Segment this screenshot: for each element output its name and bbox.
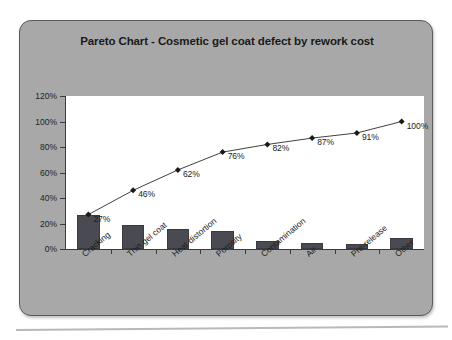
cumulative-marker bbox=[130, 187, 136, 193]
y-axis-tick-label: 80% bbox=[40, 142, 57, 152]
x-axis-category-label: Contamination bbox=[259, 216, 307, 259]
x-axis-category-label: Pre-release bbox=[349, 223, 389, 259]
cumulative-marker bbox=[264, 141, 270, 147]
cumulative-data-label: 91% bbox=[362, 132, 379, 142]
cumulative-data-label: 27% bbox=[93, 214, 110, 224]
y-axis-tick-label: 0% bbox=[45, 244, 57, 254]
y-axis-tick-label: 100% bbox=[35, 117, 57, 127]
y-axis-tick-label: 60% bbox=[40, 168, 57, 178]
cumulative-data-label: 62% bbox=[183, 169, 200, 179]
x-axis-tick bbox=[200, 249, 201, 254]
plot-area: 0%20%40%60%80%100%120% CrackingThin gel … bbox=[65, 96, 424, 250]
y-axis-tick bbox=[60, 122, 66, 123]
y-axis-tick bbox=[60, 224, 66, 225]
y-axis-tick bbox=[60, 96, 66, 97]
y-axis-tick-label: 40% bbox=[40, 193, 57, 203]
cumulative-marker bbox=[220, 149, 226, 155]
cumulative-marker bbox=[309, 135, 315, 141]
y-axis-tick-label: 20% bbox=[40, 219, 57, 229]
x-axis-tick bbox=[335, 249, 336, 254]
cumulative-data-label: 100% bbox=[407, 121, 429, 131]
y-axis-tick bbox=[60, 249, 66, 250]
bottom-divider bbox=[16, 326, 448, 331]
x-axis-tick bbox=[245, 249, 246, 254]
cumulative-marker bbox=[175, 167, 181, 173]
cumulative-marker bbox=[354, 130, 360, 136]
y-axis-tick bbox=[60, 173, 66, 174]
y-axis-tick-label: 120% bbox=[35, 91, 57, 101]
y-axis-tick bbox=[60, 147, 66, 148]
chart-panel: Pareto Chart - Cosmetic gel coat defect … bbox=[19, 20, 433, 316]
cumulative-line bbox=[66, 96, 424, 249]
cumulative-data-label: 87% bbox=[317, 137, 334, 147]
chart-title: Pareto Chart - Cosmetic gel coat defect … bbox=[20, 35, 434, 47]
cumulative-marker bbox=[399, 119, 405, 125]
cumulative-data-label: 82% bbox=[272, 143, 289, 153]
y-axis-tick bbox=[60, 198, 66, 199]
cumulative-data-label: 76% bbox=[228, 151, 245, 161]
x-axis-tick bbox=[379, 249, 380, 254]
cumulative-data-label: 46% bbox=[138, 189, 155, 199]
x-axis-tick bbox=[111, 249, 112, 254]
x-axis-tick bbox=[290, 249, 291, 254]
x-axis-tick bbox=[156, 249, 157, 254]
